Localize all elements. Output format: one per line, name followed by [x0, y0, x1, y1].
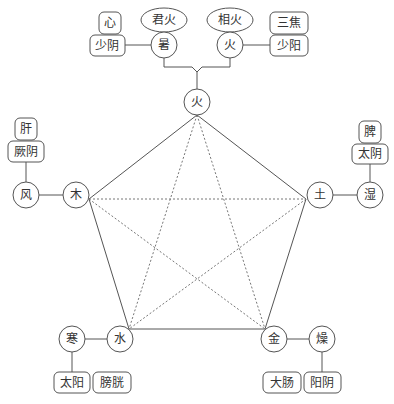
minister-fire-label: 火	[224, 38, 236, 52]
wood-element-label: 木	[70, 188, 82, 202]
bladder-label: 膀胱	[100, 375, 124, 390]
fire-branch-connector	[125, 45, 270, 89]
spleen-label: 脾	[364, 124, 376, 139]
water-element-label: 水	[114, 332, 126, 346]
shaoyin-label: 少阴	[95, 39, 119, 53]
minister-fire-sub-label: 相火	[218, 13, 242, 27]
damp-group: 脾 太阴 湿	[352, 121, 388, 208]
cold-label: 寒	[66, 331, 78, 346]
sovereign-fire-label: 君火	[152, 13, 176, 27]
jueyin-label: 厥阴	[14, 145, 38, 159]
minister-fire-group: 相火 火 三焦 少阳	[207, 8, 308, 58]
triple-burner-label: 三焦	[277, 16, 301, 30]
damp-label: 湿	[364, 187, 376, 202]
earth-element-label: 土	[314, 188, 326, 202]
large-intestine-label: 大肠	[270, 376, 294, 390]
yangming-label: 阳阴	[310, 376, 334, 390]
controlling-star	[89, 115, 306, 329]
shaoyang-label: 少阳	[277, 39, 301, 53]
wind-label: 风	[20, 188, 32, 202]
five-elements-diagram: 君火 暑 心 少阴 相火 火 三焦 少阳 火 肝 厥阴 风 木 土 脾 太阴	[0, 0, 394, 404]
dryness-label: 燥	[316, 332, 328, 346]
taiyin-label: 太阴	[358, 146, 382, 161]
taiyang-label: 太阳	[60, 375, 84, 390]
fire-element-label: 火	[191, 95, 203, 109]
pentagon-outline	[89, 115, 306, 329]
metal-element-label: 金	[268, 331, 280, 346]
heart-label: 心	[104, 16, 116, 30]
summer-heat-group: 君火 暑 心 少阴	[90, 8, 187, 58]
liver-label: 肝	[20, 122, 32, 136]
summer-heat-label: 暑	[158, 38, 170, 52]
